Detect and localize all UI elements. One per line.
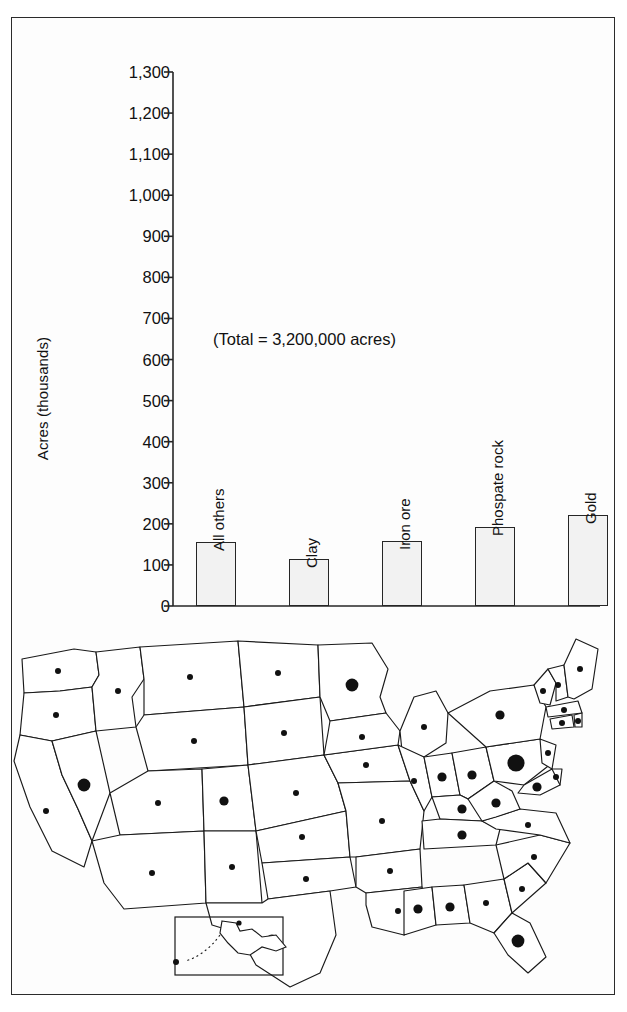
figure: Acres (thousands) 1,3001,2001,1001,00090…	[0, 0, 627, 1012]
map-dot-wi	[359, 734, 365, 740]
map-dot-ma	[561, 707, 567, 713]
map-dot-ok	[303, 876, 309, 882]
map-dot-pa	[507, 754, 524, 771]
map-dot-ia	[363, 762, 369, 768]
bar	[568, 515, 608, 606]
map-dot-ar	[387, 868, 393, 874]
map-dot-wy	[191, 738, 197, 744]
map-dot-in	[437, 772, 446, 781]
map-dot-vt	[540, 688, 546, 694]
bar	[382, 541, 422, 606]
map-dot-ct	[559, 720, 565, 726]
map-dot-ny	[495, 710, 504, 719]
us-map	[0, 635, 627, 1005]
map-dot-ne	[293, 790, 299, 796]
state-outline-az	[92, 831, 206, 909]
map-dot-oh	[467, 770, 476, 779]
map-dot-mo	[379, 818, 385, 824]
map-dot-nd	[275, 670, 281, 676]
map-dot-mi	[421, 724, 427, 730]
map-dot-nc	[531, 854, 537, 860]
map-dot-tn	[457, 830, 466, 839]
map-dot-id	[115, 688, 121, 694]
map-dot-ca	[43, 808, 49, 814]
aleutian-chain	[186, 935, 220, 961]
map-dot-al	[445, 902, 454, 911]
map-dot-ga	[483, 900, 489, 906]
map-dot-mn	[346, 679, 359, 692]
map-dot-az	[149, 870, 155, 876]
state-outlines	[14, 639, 598, 987]
map-dot-nj	[545, 750, 551, 756]
map-dot-fl	[512, 935, 525, 948]
map-dot-co	[219, 796, 228, 805]
map-dot-ky	[457, 804, 466, 813]
map-dot-sc	[519, 886, 525, 892]
bar-label: Gold	[583, 492, 598, 524]
map-dot-il	[411, 778, 417, 784]
map-dot-va	[525, 822, 531, 828]
map-dot-sd	[281, 730, 287, 736]
total-annotation: (Total = 3,200,000 acres)	[213, 330, 396, 349]
state-outline-ok	[262, 857, 356, 899]
map-dot-ms	[413, 904, 422, 913]
bar-label: Phospate rock	[490, 440, 505, 536]
map-dot-or	[53, 712, 59, 718]
bar-label: Iron ore	[397, 498, 412, 550]
map-dot-ri	[575, 718, 581, 724]
map-dot-ks	[299, 834, 305, 840]
us-map-svg	[0, 635, 627, 1005]
bar-label: Clay	[304, 538, 319, 568]
map-dot-nm	[229, 864, 235, 870]
map-dot-nh	[555, 682, 561, 688]
map-dot-ut	[155, 800, 161, 806]
map-dot-ak	[236, 920, 241, 925]
map-dot-wv	[491, 798, 500, 807]
map-dot-de	[553, 774, 559, 780]
map-dot-mt	[187, 674, 193, 680]
map-dot-hi	[173, 959, 179, 965]
bar-label: All others	[211, 489, 226, 552]
state-outline-co	[202, 765, 256, 831]
map-dot-md	[532, 782, 541, 791]
map-dot-wa	[55, 668, 61, 674]
bar-chart: Acres (thousands) 1,3001,2001,1001,00090…	[0, 0, 627, 640]
bar	[475, 527, 515, 606]
map-dot-nv	[78, 779, 91, 792]
map-dot-la	[395, 908, 401, 914]
map-dot-me	[577, 666, 583, 672]
bar	[196, 542, 236, 606]
